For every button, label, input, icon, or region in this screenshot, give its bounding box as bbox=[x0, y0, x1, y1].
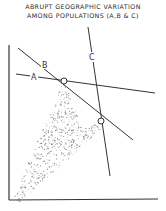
stipple-dot bbox=[65, 110, 66, 111]
stipple-dot bbox=[32, 187, 33, 188]
stipple-dot bbox=[18, 192, 19, 193]
stipple-dot bbox=[71, 133, 72, 134]
stipple-dot bbox=[53, 171, 54, 172]
intersection-marker-c bbox=[98, 118, 104, 124]
stipple-dot bbox=[93, 135, 94, 136]
stipple-dot bbox=[41, 139, 42, 140]
stipple-dot bbox=[80, 127, 81, 128]
stipple-dot bbox=[15, 196, 16, 197]
stipple-dot bbox=[54, 127, 55, 128]
stipple-dot bbox=[39, 158, 40, 159]
stipple-dot bbox=[31, 181, 32, 182]
stipple-dot bbox=[22, 184, 23, 185]
stipple-dot bbox=[41, 166, 42, 167]
stipple-dot bbox=[73, 112, 74, 113]
stipple-dot bbox=[63, 153, 64, 154]
stipple-dot bbox=[44, 144, 45, 145]
stipple-dot bbox=[69, 154, 70, 155]
stipple-dot bbox=[68, 97, 69, 98]
stipple-dot bbox=[38, 182, 39, 183]
stipple-dot bbox=[30, 192, 31, 193]
stipple-dot bbox=[25, 191, 26, 192]
stipple-dot bbox=[21, 187, 22, 188]
stipple-dot bbox=[18, 196, 19, 197]
stipple-dot bbox=[73, 140, 74, 141]
stipple-dot bbox=[31, 167, 32, 168]
stipple-dot bbox=[91, 128, 92, 129]
stipple-dot bbox=[62, 160, 63, 161]
stipple-dot bbox=[47, 153, 48, 154]
stipple-dot bbox=[57, 117, 58, 118]
stipple-dot bbox=[80, 134, 81, 135]
stipple-dot bbox=[48, 167, 49, 168]
stipple-dot bbox=[95, 130, 96, 131]
stipple-dot bbox=[69, 122, 70, 123]
stipple-dot bbox=[52, 114, 53, 115]
stipple-dot bbox=[39, 175, 40, 176]
stipple-dot bbox=[61, 153, 62, 154]
stipple-dot bbox=[37, 185, 38, 186]
stipple-dot bbox=[25, 186, 26, 187]
stipple-dot bbox=[57, 158, 58, 159]
stipple-dot bbox=[62, 119, 63, 120]
stipple-dot bbox=[37, 153, 38, 154]
stipple-dot bbox=[52, 163, 53, 164]
stipple-dot bbox=[31, 162, 32, 163]
stipple-dot bbox=[66, 117, 67, 118]
stipple-dot bbox=[53, 146, 54, 147]
stipple-dot bbox=[45, 163, 46, 164]
stipple-dot bbox=[22, 189, 23, 190]
stipple-dot bbox=[54, 146, 55, 147]
stipple-dot bbox=[37, 182, 38, 183]
stipple-dot bbox=[63, 146, 64, 147]
stipple-dot bbox=[61, 101, 62, 102]
stipple-dot bbox=[92, 133, 93, 134]
stipple-dot bbox=[65, 128, 66, 129]
stipple-dot bbox=[27, 171, 28, 172]
stipple-dot bbox=[56, 120, 57, 121]
stipple-dot bbox=[70, 128, 71, 129]
stipple-dot bbox=[76, 115, 77, 116]
stipple-dot bbox=[71, 125, 72, 126]
stipple-dot bbox=[66, 100, 67, 101]
stipple-dot bbox=[51, 130, 52, 131]
stipple-dot bbox=[49, 143, 50, 144]
stipple-dot bbox=[56, 154, 57, 155]
stipple-dot bbox=[43, 129, 44, 130]
stipple-dot bbox=[35, 182, 36, 183]
stipple-dot bbox=[67, 132, 68, 133]
stipple-dot bbox=[55, 140, 56, 141]
stipple-dot bbox=[54, 118, 55, 119]
stipple-dot bbox=[43, 161, 44, 162]
stipple-dot bbox=[37, 178, 38, 179]
stipple-dot bbox=[50, 122, 51, 123]
stipple-dot bbox=[66, 94, 67, 95]
stipple-dot bbox=[92, 130, 93, 131]
stipple-dot bbox=[77, 147, 78, 148]
stipple-dot bbox=[66, 96, 67, 97]
stipple-dot bbox=[72, 112, 73, 113]
stipple-dot bbox=[72, 154, 73, 155]
intersection-marker-ab bbox=[61, 78, 67, 84]
stipple-dot bbox=[72, 119, 73, 120]
stipple-dot bbox=[36, 165, 37, 166]
stipple-dot bbox=[52, 121, 53, 122]
stipple-dot bbox=[22, 181, 23, 182]
stipple-dot bbox=[78, 128, 79, 129]
stipple-dot bbox=[58, 92, 59, 93]
stipple-dot bbox=[59, 132, 60, 133]
stipple-dot bbox=[60, 145, 61, 146]
stipple-dot bbox=[53, 126, 54, 127]
stipple-dot bbox=[23, 176, 24, 177]
stipple-dot bbox=[84, 139, 85, 140]
stipple-dot bbox=[55, 126, 56, 127]
stipple-dot bbox=[65, 111, 66, 112]
stipple-dot bbox=[54, 140, 55, 141]
stipple-dot bbox=[54, 165, 55, 166]
stipple-dot bbox=[78, 138, 79, 139]
stipple-dot bbox=[73, 127, 74, 128]
stipple-dot bbox=[68, 158, 69, 159]
stipple-dot bbox=[60, 134, 61, 135]
stipple-dot bbox=[21, 181, 22, 182]
stipple-dot bbox=[42, 180, 43, 181]
